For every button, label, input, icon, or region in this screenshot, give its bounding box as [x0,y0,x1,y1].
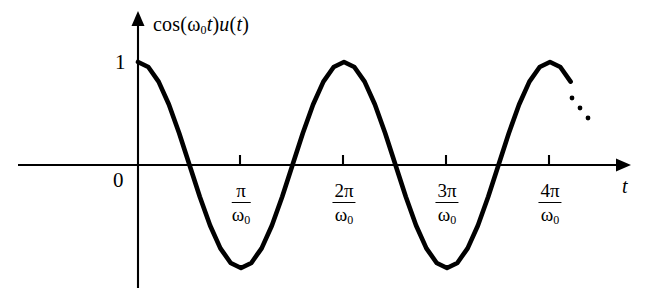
function-label: cos(ω0t)u(t) [153,14,249,36]
tick-denominator-subscript: 0 [347,213,353,227]
x-tick-label-1: πω0 [232,181,251,227]
continuation-dots [570,96,591,121]
amplitude-label-1: 1 [115,52,126,73]
function-label-u: u [219,13,229,35]
tick-denominator-subscript: 0 [450,213,456,227]
tick-denominator: ω0 [232,203,251,227]
x-tick-label-3: 3πω0 [435,181,458,227]
tick-numerator: 3π [435,181,458,203]
cosine-plot-svg [0,0,662,288]
x-axis [18,159,631,172]
tick-denominator: ω0 [435,203,458,227]
tick-denominator-subscript: 0 [553,213,559,227]
tick-numerator: 4π [538,181,561,203]
tick-numerator: 2π [332,181,355,203]
y-axis [132,11,145,288]
tick-denominator: ω0 [538,203,561,227]
origin-label-0: 0 [113,170,124,191]
x-tick-label-2: 2πω0 [332,181,355,227]
function-label-close-paren: ) [242,13,249,35]
figure-container: cos(ω0t)u(t) 1 0 t πω02πω03πω04πω0 [0,0,662,288]
omega-symbol: ω [187,13,200,35]
x-axis-label-t: t [622,176,628,196]
tick-numerator: π [232,181,251,203]
x-tick-label-4: 4πω0 [538,181,561,227]
function-label-prefix: cos( [153,13,187,35]
tick-denominator-subscript: 0 [244,213,250,227]
tick-denominator: ω0 [332,203,355,227]
